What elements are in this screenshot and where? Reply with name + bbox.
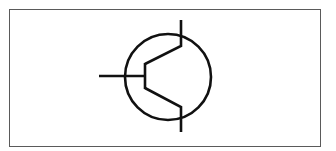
collector-lead bbox=[145, 20, 181, 64]
emitter-lead bbox=[145, 88, 181, 132]
transistor-symbol bbox=[0, 0, 336, 151]
